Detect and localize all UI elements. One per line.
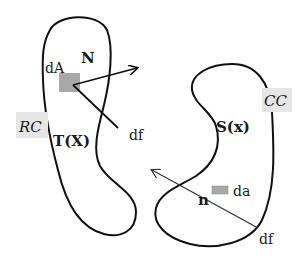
- current-configuration: CC S(x) n da df: [152, 64, 292, 247]
- force-label-df-current: df: [259, 231, 275, 247]
- current-body-outline: [155, 64, 273, 246]
- traction-label-TX: T(X): [53, 132, 90, 150]
- region-label-cc: CC: [264, 92, 287, 110]
- area-element-da: [212, 186, 228, 194]
- force-label-df-reference: df: [129, 127, 145, 143]
- normal-vector-N: [73, 68, 137, 85]
- deformation-diagram: RC N dA df T(X) CC S(x) n da df: [0, 0, 301, 265]
- area-element-label-dA: dA: [45, 60, 65, 76]
- normal-label-n: n: [198, 191, 209, 209]
- force-vector-df-reference: [73, 85, 118, 128]
- traction-label-Sx: S(x): [216, 118, 250, 136]
- area-element-label-da: da: [233, 183, 250, 199]
- normal-label-N: N: [81, 49, 95, 67]
- reference-configuration: RC N dA df T(X): [16, 17, 145, 235]
- region-label-rc: RC: [18, 118, 42, 136]
